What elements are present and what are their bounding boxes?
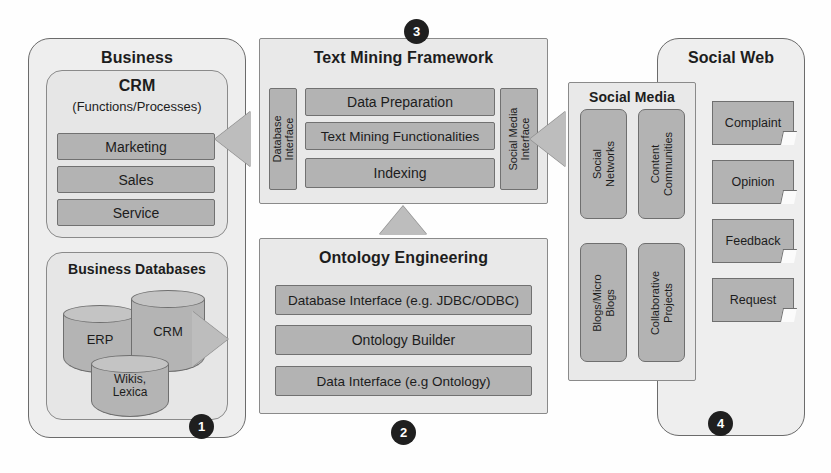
database-interface-line1: Database	[271, 115, 283, 162]
social-web-title: Social Web	[658, 49, 804, 67]
ontology-layer-label: Data Interface (e.g Ontology)	[316, 374, 490, 389]
ontology-layer-database-interface[interactable]: Database Interface (e.g. JDBC/ODBC)	[275, 285, 532, 315]
cylinder-label: ERP	[63, 333, 137, 347]
ontology-layer-label: Ontology Builder	[352, 332, 456, 348]
ontology-layer-data-interface[interactable]: Data Interface (e.g Ontology)	[275, 366, 532, 396]
social-media-item-line1: Content	[649, 145, 661, 184]
crm-item-label: Service	[113, 205, 160, 221]
badge-4: 4	[708, 411, 733, 436]
social-web-item-opinion[interactable]: Opinion	[712, 160, 794, 204]
layer-label: Text Mining Functionalities	[321, 129, 479, 144]
social-web-item-label: Request	[730, 293, 777, 307]
social-media-title: Social Media	[569, 89, 695, 105]
social-media-item-line1: Collaborative	[649, 270, 661, 334]
layer-label: Indexing	[374, 165, 427, 181]
business-databases-title: Business Databases	[47, 261, 227, 277]
social-web-item-complaint[interactable]: Complaint	[712, 101, 794, 145]
social-web-item-label: Feedback	[726, 234, 781, 248]
crm-item-label: Marketing	[105, 139, 166, 155]
social-media-item-collaborative-projects[interactable]: Collaborative Projects	[638, 243, 685, 362]
social-media-item-line1: Blogs/Micro	[591, 274, 603, 331]
social-media-interface-line1: Social Media	[507, 108, 519, 171]
social-media-item-line1: Social	[591, 149, 603, 179]
text-mining-title: Text Mining Framework	[260, 49, 547, 67]
social-media-item-line2: Blogs	[604, 289, 616, 317]
social-web-item-label: Complaint	[725, 116, 781, 130]
cylinder-wikis-lexica: Wikis, Lexica	[91, 355, 169, 417]
database-interface-bar[interactable]: Database Interface	[269, 88, 297, 190]
arrow-databases-to-ontology	[192, 311, 228, 367]
layer-label: Data Preparation	[347, 94, 453, 110]
arrow-social-media-to-framework	[530, 111, 566, 167]
crm-subtitle: (Functions/Processes)	[47, 99, 227, 114]
social-media-item-line2: Projects	[662, 283, 674, 323]
crm-item-marketing[interactable]: Marketing	[57, 133, 215, 160]
arrow-ontology-to-framework	[379, 206, 427, 235]
social-media-item-line2: Networks	[604, 141, 616, 187]
layer-indexing[interactable]: Indexing	[305, 158, 495, 188]
social-web-item-request[interactable]: Request	[712, 278, 794, 322]
crm-item-service[interactable]: Service	[57, 199, 215, 226]
ontology-layer-label: Database Interface (e.g. JDBC/ODBC)	[288, 293, 519, 308]
social-media-item-line2: Communities	[662, 132, 674, 196]
social-media-item-content-communities[interactable]: Content Communities	[638, 109, 685, 219]
layer-text-mining-functionalities[interactable]: Text Mining Functionalities	[305, 122, 495, 150]
diagram-canvas: Business CRM (Functions/Processes) Marke…	[0, 0, 831, 473]
layer-data-preparation[interactable]: Data Preparation	[305, 88, 495, 116]
arrow-framework-to-crm	[215, 111, 251, 167]
social-web-item-label: Opinion	[731, 175, 774, 189]
social-media-item-social-networks[interactable]: Social Networks	[580, 109, 627, 219]
business-title: Business	[29, 49, 245, 67]
crm-item-label: Sales	[118, 172, 153, 188]
badge-3: 3	[404, 19, 429, 44]
crm-title: CRM	[47, 77, 227, 95]
cylinder-label-line2: Lexica	[91, 386, 169, 399]
ontology-layer-ontology-builder[interactable]: Ontology Builder	[275, 325, 532, 355]
crm-item-sales[interactable]: Sales	[57, 166, 215, 193]
badge-2: 2	[391, 420, 416, 445]
badge-1: 1	[189, 414, 214, 439]
ontology-title: Ontology Engineering	[260, 249, 547, 267]
database-interface-line2: Interface	[283, 118, 295, 161]
social-media-item-blogs-micro-blogs[interactable]: Blogs/Micro Blogs	[580, 243, 627, 362]
social-web-item-feedback[interactable]: Feedback	[712, 219, 794, 263]
